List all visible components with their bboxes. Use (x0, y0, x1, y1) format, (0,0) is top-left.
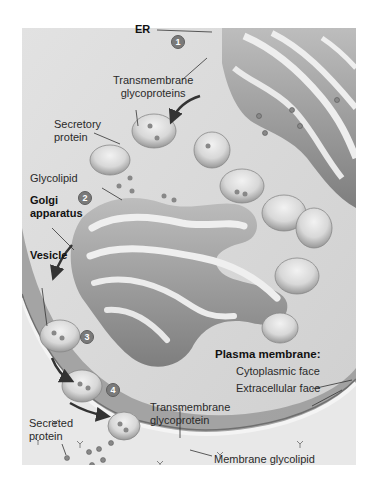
step-badge-3: 3 (80, 330, 94, 344)
step-badge-2: 2 (78, 191, 92, 205)
label-vesicle: Vesicle (30, 249, 67, 262)
step-badge-1: 1 (171, 35, 185, 49)
label-er: ER (135, 23, 150, 36)
step-badge-4: 4 (106, 383, 120, 397)
label-secretory-protein: Secretory protein (54, 118, 101, 143)
secretion-pathway-figure: ER Transmembrane glycoproteins Secretory… (22, 28, 356, 465)
label-plasma-membrane: Plasma membrane: (215, 348, 320, 361)
label-secreted-protein: Secreted protein (29, 417, 73, 442)
label-extracellular-face: Extracellular face (236, 382, 320, 395)
label-golgi-apparatus: Golgi apparatus (30, 194, 83, 219)
label-membrane-glycolipid: Membrane glycolipid (214, 453, 315, 466)
label-transmembrane-glycoproteins: Transmembrane glycoproteins (113, 74, 193, 99)
label-glycolipid: Glycolipid (30, 172, 78, 185)
label-transmembrane-glycoprotein: Transmembrane glycoprotein (150, 401, 230, 426)
label-cytoplasmic-face: Cytoplasmic face (236, 365, 320, 378)
